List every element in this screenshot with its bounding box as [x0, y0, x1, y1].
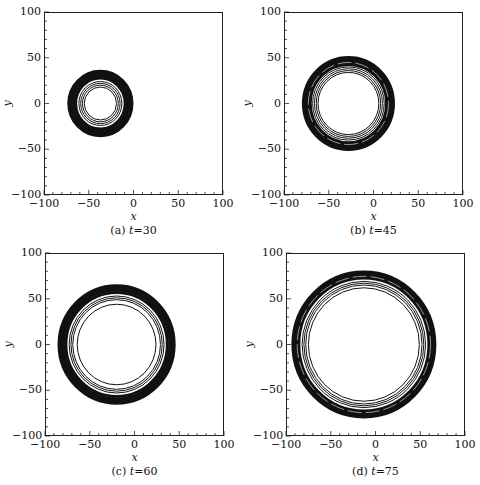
contour-line — [82, 85, 118, 122]
contour-plot — [44, 12, 223, 195]
contour-line — [302, 281, 426, 407]
y-tick-label: 100 — [12, 247, 42, 258]
contour-line — [77, 304, 156, 385]
contour-line — [304, 283, 424, 406]
caption-value: =60 — [134, 465, 157, 478]
y-tick-label: 50 — [11, 52, 41, 63]
axes-frame — [46, 254, 224, 436]
y-axis-label: y — [243, 341, 256, 347]
y-tick-label: 0 — [12, 339, 42, 350]
y-tick-label: −50 — [253, 384, 283, 395]
contour-line — [64, 291, 170, 399]
y-axis-label: y — [1, 100, 14, 106]
y-tick-label: 100 — [253, 247, 283, 258]
x-tick-label: 100 — [450, 439, 480, 450]
subplot-caption: (d) t=75 — [316, 465, 436, 478]
y-tick-label: 100 — [11, 6, 41, 17]
subplot-b: 100500−50−100−100−50050100xy(b) t=45 — [237, 0, 474, 242]
x-tick-label: −50 — [314, 198, 344, 209]
plot-area — [286, 253, 465, 436]
contour-line — [314, 69, 382, 139]
caption-value: =75 — [376, 465, 399, 478]
x-tick-label: −50 — [316, 439, 346, 450]
x-tick-label: 0 — [119, 198, 149, 209]
plot-area — [44, 12, 223, 195]
contour-plot — [286, 253, 465, 436]
contour-line — [84, 87, 116, 120]
y-tick-label: −50 — [251, 143, 281, 154]
y-axis-label: y — [241, 100, 254, 106]
x-tick-label: 100 — [208, 198, 238, 209]
x-tick-label: 50 — [405, 439, 435, 450]
caption-label: (d) — [352, 465, 368, 478]
x-tick-label: 0 — [359, 198, 389, 209]
y-axis-label: y — [2, 341, 15, 347]
y-tick-label: 0 — [251, 98, 281, 109]
x-tick-label: 50 — [163, 198, 193, 209]
caption-value: =30 — [133, 224, 156, 237]
axes-frame — [287, 254, 465, 436]
contour-band — [296, 275, 432, 414]
subplot-caption: (a) t=30 — [74, 224, 194, 237]
x-tick-label: 0 — [120, 439, 150, 450]
x-tick-label: −100 — [269, 198, 299, 209]
plot-area — [284, 12, 463, 195]
contour-band — [307, 61, 390, 146]
x-tick-label: −50 — [75, 439, 105, 450]
x-tick-label: 50 — [164, 439, 194, 450]
caption-label: (b) — [350, 224, 366, 237]
x-axis-label: x — [373, 451, 379, 464]
x-tick-label: −100 — [271, 439, 301, 450]
contour-line — [79, 82, 122, 126]
contour-line — [81, 83, 120, 123]
contour-line — [316, 71, 380, 137]
x-axis-label: x — [371, 210, 377, 223]
subplot-caption: (b) t=45 — [314, 224, 434, 237]
y-tick-label: 50 — [251, 52, 281, 63]
x-tick-label: −100 — [29, 198, 59, 209]
contour-plot — [45, 253, 224, 436]
contour-line — [69, 296, 164, 393]
x-tick-label: 0 — [361, 439, 391, 450]
contour-line — [306, 285, 422, 404]
y-tick-label: 0 — [253, 339, 283, 350]
contour-line — [62, 289, 171, 401]
x-axis-label: x — [131, 210, 137, 223]
subplot-d: 100500−50−100−100−50050100xy(d) t=75 — [237, 242, 474, 484]
y-tick-label: −50 — [11, 143, 41, 154]
x-axis-label: x — [132, 451, 138, 464]
x-tick-label: 100 — [448, 198, 478, 209]
y-tick-label: 0 — [11, 98, 41, 109]
x-tick-label: 50 — [403, 198, 433, 209]
caption-label: (c) — [112, 465, 127, 478]
x-tick-label: −50 — [74, 198, 104, 209]
y-tick-label: −50 — [12, 384, 42, 395]
contour-line — [318, 72, 379, 134]
plot-area — [45, 253, 224, 436]
contour-line — [71, 298, 162, 391]
y-tick-label: 50 — [253, 293, 283, 304]
x-tick-label: −100 — [30, 439, 60, 450]
y-tick-label: 100 — [251, 6, 281, 17]
contour-line — [308, 288, 419, 401]
contour-line — [313, 67, 385, 140]
contour-plot — [284, 12, 463, 195]
contour-line — [73, 300, 161, 390]
subplot-c: 100500−50−100−100−50050100xy(c) t=60 — [0, 242, 237, 484]
subplot-caption: (c) t=60 — [75, 465, 195, 478]
subplot-a: 100500−50−100−100−50050100xy(a) t=30 — [0, 0, 237, 242]
caption-label: (a) — [110, 224, 125, 237]
x-tick-label: 100 — [209, 439, 239, 450]
y-tick-label: 50 — [12, 293, 42, 304]
caption-value: =45 — [374, 224, 397, 237]
